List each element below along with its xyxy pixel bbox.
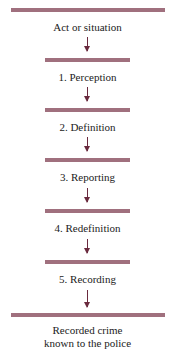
stage-label-perception: 1. Perception <box>0 71 175 84</box>
end-label-line1: Recorded crime <box>0 324 175 337</box>
arrow-down-icon <box>87 290 88 307</box>
arrow-down-icon <box>87 188 88 202</box>
stage-bar-2 <box>45 108 130 112</box>
stage-bar-1 <box>45 58 130 62</box>
arrow-down-icon <box>87 37 88 51</box>
stage-label-recording: 5. Recording <box>0 273 175 286</box>
arrow-down-icon <box>87 87 88 101</box>
start-bar <box>11 8 165 12</box>
stage-label-reporting: 3. Reporting <box>0 171 175 184</box>
stage-label-definition: 2. Definition <box>0 121 175 134</box>
start-label: Act or situation <box>0 21 175 34</box>
arrow-down-icon <box>87 239 88 253</box>
stage-bar-4 <box>45 209 130 213</box>
stage-bar-5 <box>45 260 130 264</box>
arrow-down-icon <box>87 137 88 151</box>
end-label-line2: known to the police <box>0 337 175 350</box>
end-bar <box>11 313 165 317</box>
stage-label-redefinition: 4. Redefinition <box>0 222 175 235</box>
stage-bar-3 <box>45 158 130 162</box>
